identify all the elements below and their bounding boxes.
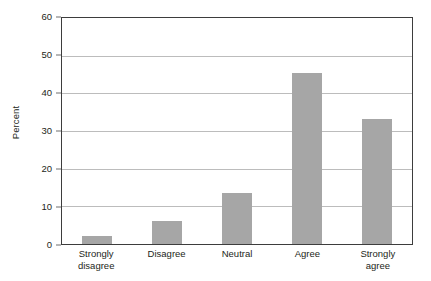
x-axis-tick-label: Neutral — [202, 248, 272, 271]
bar-slot — [62, 18, 132, 244]
y-axis-tick-labels: 0102030405060 — [26, 17, 52, 245]
x-axis-tick-label: Stronglydisagree — [61, 248, 131, 271]
x-axis-tick-label: Stronglyagree — [343, 248, 413, 271]
y-axis-tick-label: 40 — [41, 88, 52, 98]
y-axis-tick-label: 30 — [41, 126, 52, 136]
bar — [82, 236, 112, 244]
plot-area — [61, 17, 413, 245]
y-axis-tick-label: 0 — [47, 240, 52, 250]
x-axis-tick-label: Agree — [272, 248, 342, 271]
bar-slot — [202, 18, 272, 244]
y-axis-tick-label: 60 — [41, 12, 52, 22]
y-axis-title: Percent — [5, 0, 27, 245]
bar — [222, 193, 252, 244]
bar — [292, 73, 322, 244]
x-axis-tick-label-line2: agree — [343, 260, 413, 272]
y-axis-tick-label: 10 — [41, 202, 52, 212]
bars-layer — [62, 18, 412, 244]
y-axis-tick-label: 50 — [41, 50, 52, 60]
x-axis-tick-label-line1: Strongly — [360, 248, 395, 259]
bar-slot — [342, 18, 412, 244]
bar-slot — [132, 18, 202, 244]
bar — [362, 119, 392, 244]
y-axis-title-label: Percent — [11, 106, 22, 139]
bar-chart: Percent 0102030405060 StronglydisagreeDi… — [0, 0, 431, 281]
x-axis-tick-label-line1: Disagree — [148, 248, 186, 259]
bar-slot — [272, 18, 342, 244]
bar — [152, 221, 182, 244]
x-axis-tick-label-line1: Agree — [295, 248, 320, 259]
x-axis-tick-label-line1: Strongly — [79, 248, 114, 259]
x-axis-tick-label: Disagree — [131, 248, 201, 271]
x-axis-tick-label-line2: disagree — [61, 260, 131, 272]
x-axis-tick-label-line1: Neutral — [222, 248, 253, 259]
y-axis-tick-label: 20 — [41, 164, 52, 174]
x-axis-tick-labels: StronglydisagreeDisagreeNeutralAgreeStro… — [61, 248, 413, 271]
